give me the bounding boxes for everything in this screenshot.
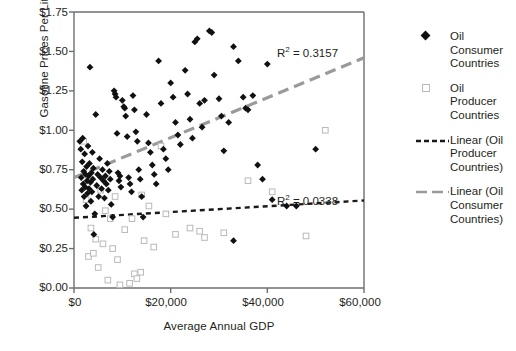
dashed-short-line-icon <box>416 136 450 146</box>
legend-label-line: Countries <box>450 57 503 71</box>
chart-legend: Oil Consumer Countries Oil Producer Coun… <box>416 30 516 237</box>
legend-label-line: Countries) <box>450 213 503 227</box>
rsq-producer-value: = 0.0338 <box>290 195 338 207</box>
legend-marker-dashed-short-line <box>416 134 450 146</box>
legend-label: Oil Consumer Countries <box>450 30 503 71</box>
legend-item-oil-consumer-countries[interactable]: Oil Consumer Countries <box>416 30 516 71</box>
legend-item-linear-oil-consumer[interactable]: Linear (Oil Consumer Countries) <box>416 185 516 226</box>
legend-label-line: Producer <box>450 95 499 109</box>
legend-label: Linear (Oil Consumer Countries) <box>450 185 503 226</box>
legend-item-oil-producer-countries[interactable]: Oil Producer Countries <box>416 82 516 123</box>
legend-label: Oil Producer Countries <box>450 82 499 123</box>
series-oil-consumer-countries <box>76 28 319 245</box>
legend-label-line: Consumer <box>450 44 503 58</box>
rsq-consumer-value: = 0.3157 <box>290 47 338 59</box>
legend-label-line: Countries <box>450 109 499 123</box>
legend-label-line: Linear (Oil <box>450 185 503 199</box>
legend-label-line: Consumer <box>450 199 503 213</box>
legend-marker-dashed-long-line <box>416 185 450 197</box>
legend-label: Linear (Oil Producer Countries) <box>450 134 503 175</box>
legend-label-line: Countries) <box>450 161 503 175</box>
legend-label-line: Oil <box>450 82 499 96</box>
legend-label-line: Linear (Oil <box>450 134 503 148</box>
dashed-long-line-icon <box>416 187 450 197</box>
legend-label-line: Oil <box>450 30 503 44</box>
open-square-icon <box>422 84 430 92</box>
r-squared-producer-annotation: R2 = 0.0338 <box>277 193 338 207</box>
series-oil-producer-countries <box>81 127 328 287</box>
r-squared-consumer-annotation: R2 = 0.3157 <box>277 45 338 59</box>
legend-label-line: Producer <box>450 147 503 161</box>
chart-root: Gasoline Prices Per Liter 2004 $1.75 $1.… <box>0 0 516 351</box>
legend-marker-filled-diamond <box>416 30 450 39</box>
filled-diamond-icon <box>421 31 431 41</box>
legend-item-linear-oil-producer[interactable]: Linear (Oil Producer Countries) <box>416 134 516 175</box>
legend-marker-open-square <box>416 82 450 92</box>
